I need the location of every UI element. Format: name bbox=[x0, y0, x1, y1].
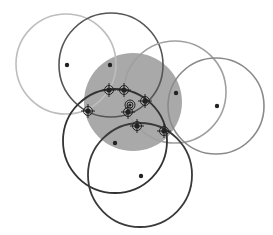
center-dot-icon bbox=[65, 63, 69, 67]
circle-intersection-diagram bbox=[0, 0, 273, 235]
center-dot-icon bbox=[113, 141, 117, 145]
center-dot-icon bbox=[139, 174, 143, 178]
center-dot-icon bbox=[215, 104, 219, 108]
center-dot-icon bbox=[174, 91, 178, 95]
center-dot-icon bbox=[108, 63, 112, 67]
